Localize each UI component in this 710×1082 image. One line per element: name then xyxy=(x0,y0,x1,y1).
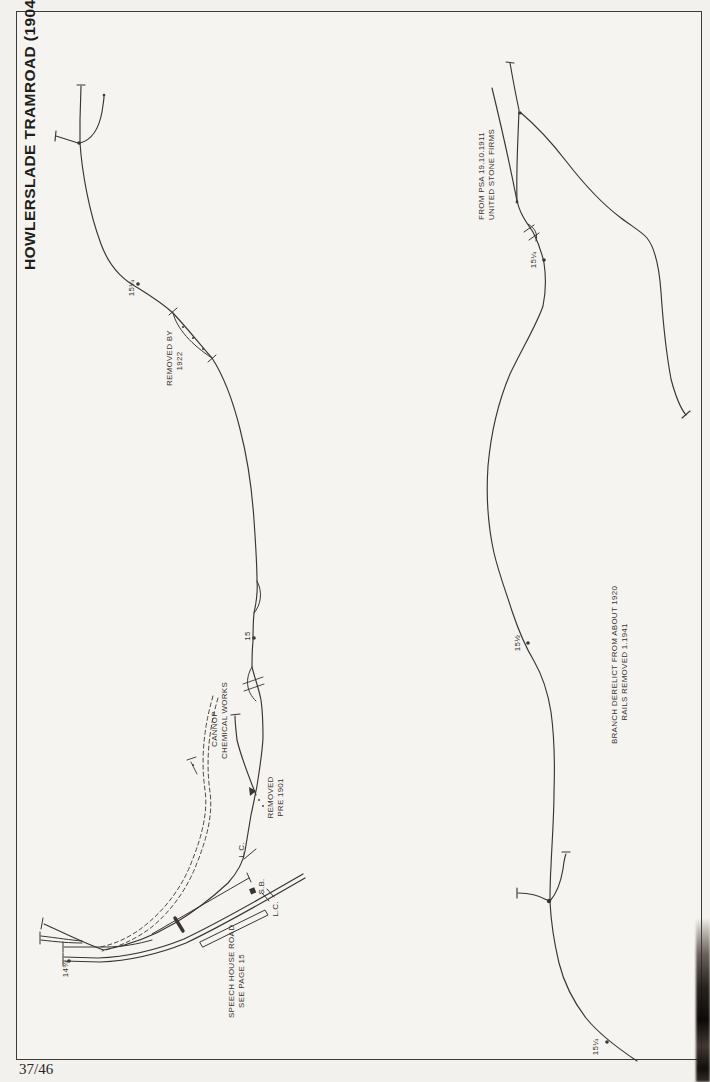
hook-branch xyxy=(550,854,566,901)
page-number: 37/46 xyxy=(19,1061,53,1078)
milepost-label: 15½ xyxy=(513,631,523,655)
page-title: HOWLERSLADE TRAMROAD (1904) xyxy=(21,32,39,270)
level-crossing-hatch-a xyxy=(243,677,263,684)
tramroad-main-line-1 xyxy=(44,86,263,950)
junction-dot xyxy=(77,141,81,145)
branch-end-dot xyxy=(103,94,106,97)
cannop-branch-end-bar xyxy=(231,714,240,715)
west-spur xyxy=(518,893,547,900)
line-end-tick-2 xyxy=(506,62,514,63)
spur-end-tick xyxy=(55,131,56,141)
top-left-spur xyxy=(56,136,78,143)
signal-box-marker xyxy=(249,887,256,894)
branch-derelict-label: BRANCH DERELICT FROM ABOUT 1920 RAILS RE… xyxy=(610,600,631,744)
east-branch xyxy=(520,112,686,415)
milepost-label: 15¼ xyxy=(127,276,137,300)
railway-lc-hatch-b xyxy=(267,889,274,897)
milepost-label: 14¾ xyxy=(61,957,71,981)
tramroad-map-drawing xyxy=(0,0,710,1082)
milepost-dots-2 xyxy=(526,258,609,1044)
psa-united-stone-firms-label: FROM PSA 19.10.1911 UNITED STONE FIRMS xyxy=(477,132,498,220)
book-gutter-shadow xyxy=(696,918,710,1082)
dismantled-spur-dot xyxy=(192,764,194,766)
removed-pre-1901-label: REMOVED PRE 1901 xyxy=(266,775,287,820)
tramroad-end-tick xyxy=(41,918,43,929)
milepost-label: 15¼ xyxy=(529,248,539,272)
diagram1-tramroad xyxy=(40,85,305,966)
dismantled-spur-bar xyxy=(187,757,196,760)
single-stub xyxy=(64,940,152,947)
milepost-label: 15 xyxy=(243,628,253,644)
cannop-branch xyxy=(235,716,256,795)
level-crossing-hatch-b xyxy=(244,684,264,691)
milepost-label: 15¼ xyxy=(591,1035,601,1059)
top-branch xyxy=(80,96,104,143)
level-crossing-label: L.C. xyxy=(271,898,281,920)
dash-dot-marks xyxy=(258,799,264,807)
dismantled-spur xyxy=(191,762,197,774)
cannop-chemical-works-label: CANNOP CHEMICAL WORKS xyxy=(210,699,231,759)
diagram2-tramroad xyxy=(487,62,690,1061)
speech-house-road-label: SPEECH HOUSE ROAD SEE PAGE 15 xyxy=(227,944,248,1018)
siding-end-tick xyxy=(247,873,251,882)
level-crossing-label: L.C. xyxy=(237,839,247,861)
removed-by-1922-label: REMOVED BY 1922 xyxy=(165,336,186,386)
junction-dot-a xyxy=(518,111,521,114)
passing-loop-2 xyxy=(247,667,256,701)
milepost-dots-1 xyxy=(67,282,256,963)
scanned-map-page: HOWLERSLADE TRAMROAD (1904) 15¼ REMOVED … xyxy=(0,0,710,1082)
junction-dot-b xyxy=(516,201,519,204)
dismantled-tramroad xyxy=(100,696,218,951)
signal-box-label: S.B. xyxy=(257,877,267,896)
